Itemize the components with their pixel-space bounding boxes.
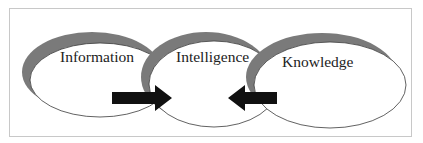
diagram-canvas: Information Intelligence Knowledge [0,0,423,143]
label-information: Information [60,48,134,65]
node-knowledge [246,33,406,128]
label-intelligence: Intelligence [176,48,249,65]
label-knowledge: Knowledge [282,53,354,70]
